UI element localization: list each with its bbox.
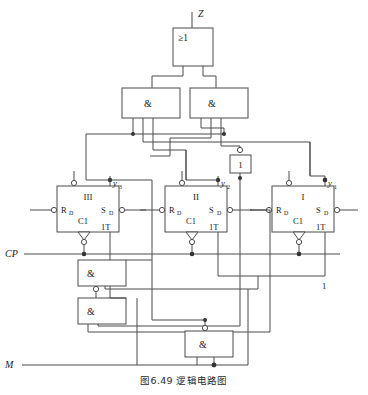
and-gate-bottom-group: & (152, 318, 233, 365)
inverter-gate-group: 1 (230, 147, 251, 238)
flipflop-II-reset-sub: D (177, 210, 182, 216)
junction-dot (297, 252, 301, 256)
flipflop-I-clock-bubble (296, 239, 301, 244)
flipflop-III-output-sub: 3 (119, 184, 122, 190)
flipflop-I-clock-label: C1 (293, 216, 303, 226)
flipflop-I-set-bubble (334, 207, 339, 212)
clock-bus-group: CP (5, 248, 340, 259)
circuit-svg: Z ≥1 & (0, 8, 368, 368)
flipflop-III-clock-triangle (78, 232, 90, 240)
flipflop-III-clock-bubble (81, 239, 86, 244)
and-gate-top-right-label: & (208, 98, 216, 109)
flipflop-III-set-sub: D (109, 210, 114, 216)
or-gate-label: ≥1 (178, 33, 188, 43)
flipflop-I-top-bubble (286, 180, 291, 185)
flipflop-I-output-sub: 1 (334, 184, 337, 190)
upper-bus-wires (86, 128, 310, 180)
flipflop-III-toggle-label: 1T (101, 222, 111, 232)
junction-dot (323, 178, 327, 182)
flipflop-II-title: II (193, 192, 199, 202)
and-gate-mid-left-group: & (78, 260, 258, 298)
inverter-gate-label: 1 (238, 160, 243, 170)
junction-dot (82, 252, 86, 256)
flipflop-I-clock-triangle (293, 232, 305, 240)
figure-caption: 图6.49 逻辑电路图 (0, 373, 368, 387)
flipflop-II-reset-bubble (159, 207, 164, 212)
inverter-input-bubble (237, 147, 242, 152)
and-gate-top-right-body (190, 88, 248, 118)
or-gate-input-wires (152, 66, 216, 88)
flipflop-II-output-sub: 2 (227, 184, 230, 190)
flipflop-I-reset-label: R (276, 205, 282, 215)
junction-dot (190, 252, 194, 256)
flipflop-I-toggle-label: 1T (316, 222, 326, 232)
junction-dot (222, 132, 226, 136)
or-gate-z-group: Z ≥1 (173, 8, 213, 66)
flipflop-II-output-label: y (220, 178, 225, 188)
flipflop-II-clock-triangle (186, 232, 198, 240)
and-gate-top-left-label: & (144, 98, 152, 109)
flipflop-II-reset-label: R (169, 205, 175, 215)
flipflop-II-set-bubble (227, 207, 232, 212)
flipflop-III-clock-label: C1 (78, 216, 88, 226)
flipflop-I-output-label: y (327, 178, 332, 188)
figure-page: Z ≥1 & (0, 0, 368, 395)
and-gate-mid-left-body (78, 260, 126, 286)
constant-one-label: 1 (322, 281, 326, 291)
and-gate-top-right-group: & (190, 88, 248, 146)
m-label: M (4, 359, 14, 368)
flipflop-II-set-sub: D (217, 210, 222, 216)
logic-circuit-figure: Z ≥1 & (0, 8, 368, 368)
flipflop-II-clock-label: C1 (186, 216, 196, 226)
and-gate-top-left-group: & (122, 88, 180, 150)
flipflop-III-title: III (84, 192, 93, 202)
flipflop-III-reset-label: R (61, 205, 67, 215)
flipflop-II-top-bubble (179, 180, 184, 185)
flipflop-III-top-bubble (71, 180, 76, 185)
and-gate-mid-left-out-bubble (93, 286, 98, 291)
and-gate-low-left-label: & (87, 306, 95, 317)
junction-dot (212, 363, 217, 368)
flipflop-III-set-bubble (119, 207, 124, 212)
flipflop-I-reset-sub: D (284, 210, 289, 216)
z-label: Z (198, 8, 204, 19)
and-gate-bottom-label: & (199, 339, 207, 350)
flipflop-I-title: I (302, 192, 305, 202)
flipflop-II-set-label: S (209, 205, 214, 215)
and-gate-bottom-in-bubble (202, 325, 207, 330)
flipflop-II-toggle-label: 1T (209, 222, 219, 232)
and-gate-mid-left-label: & (87, 268, 95, 279)
flipflop-III-reset-bubble (51, 207, 56, 212)
cp-label: CP (5, 248, 18, 259)
flipflop-II-clock-bubble (189, 239, 194, 244)
flipflop-III-reset-sub: D (69, 210, 74, 216)
flipflop-I-group: I R D S D C1 1T 1 (250, 142, 358, 291)
junction-dot (131, 132, 135, 136)
flipflop-III-set-label: S (101, 205, 106, 215)
flipflop-I-set-label: S (316, 205, 321, 215)
and-gate-low-left-body (78, 298, 126, 324)
and-gate-bottom-body (185, 331, 233, 357)
flipflop-I-set-sub: D (324, 210, 329, 216)
